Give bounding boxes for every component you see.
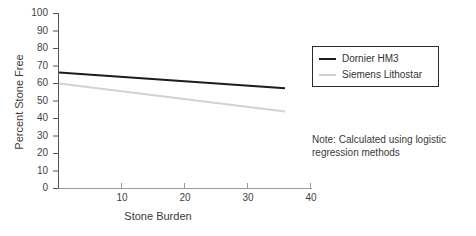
y-axis-title: Percent Stone Free [13, 42, 25, 162]
chart-note-line-2: regression methods [312, 146, 472, 159]
x-axis-ticks [122, 183, 311, 189]
chart-note: Note: Calculated using logistic regressi… [312, 133, 472, 159]
y-tick-label-90: 90 [22, 26, 48, 36]
chart-figure: 100 90 80 70 60 50 40 30 20 10 0 10 20 3… [0, 0, 476, 236]
y-axis-ticks [53, 14, 59, 189]
chart-legend: Dornier HM3 Siemens Lithostar [312, 46, 439, 87]
legend-line-swatch-icon [319, 58, 336, 60]
y-tick-label-40: 40 [22, 113, 48, 123]
y-tick-label-10: 10 [22, 166, 48, 176]
x-tick-label-10: 10 [109, 193, 135, 203]
y-tick-label-80: 80 [22, 43, 48, 53]
x-axis-title: Stone Burden [58, 210, 258, 222]
x-tick-label-20: 20 [172, 193, 198, 203]
x-tick-label-40: 40 [298, 193, 324, 203]
series-line-siemens-lithostar [59, 84, 285, 112]
chart-note-line-1: Note: Calculated using logistic [312, 133, 472, 146]
y-tick-label-0: 0 [22, 183, 48, 193]
y-tick-label-50: 50 [22, 96, 48, 106]
y-tick-label-60: 60 [22, 78, 48, 88]
y-tick-label-20: 20 [22, 148, 48, 158]
legend-item-siemens-lithostar[interactable]: Siemens Lithostar [319, 67, 438, 83]
legend-item-dornier-hm3[interactable]: Dornier HM3 [319, 51, 438, 67]
legend-line-swatch-icon [319, 74, 336, 76]
legend-item-label: Siemens Lithostar [342, 69, 422, 81]
x-tick-label-30: 30 [235, 193, 261, 203]
y-tick-label-100: 100 [22, 8, 48, 18]
legend-item-label: Dornier HM3 [342, 53, 399, 65]
y-tick-label-30: 30 [22, 131, 48, 141]
y-tick-label-70: 70 [22, 61, 48, 71]
series-line-dornier-hm3 [59, 73, 285, 89]
